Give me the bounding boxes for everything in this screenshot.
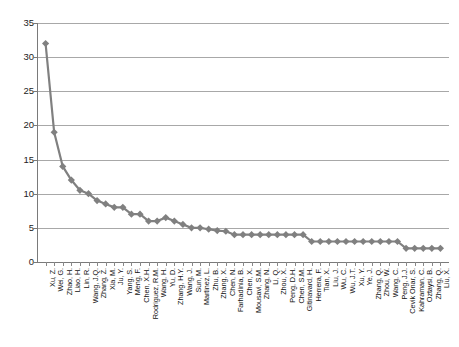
x-tick-mark (209, 262, 210, 266)
gridline (37, 228, 449, 229)
y-tick-label: 10 (0, 189, 34, 199)
x-axis-label: Peng, D.H. (289, 268, 297, 303)
x-axis-label: Martinez, L. (203, 268, 211, 305)
y-tick-label: 5 (0, 223, 34, 233)
x-tick-mark (286, 262, 287, 266)
x-tick-mark (131, 262, 132, 266)
x-tick-mark (406, 262, 407, 266)
x-tick-mark (106, 262, 107, 266)
x-tick-mark (363, 262, 364, 266)
gridline (37, 57, 449, 58)
x-tick-mark (372, 262, 373, 266)
y-axis-line (37, 23, 38, 263)
x-tick-mark (303, 262, 304, 266)
gridline (37, 160, 449, 161)
y-tick-label: 30 (0, 52, 34, 62)
x-tick-mark (329, 262, 330, 266)
gridline (37, 23, 449, 24)
x-tick-mark (380, 262, 381, 266)
x-axis-label: Cevik Onar, S. (409, 268, 417, 314)
x-axis-label: Gitinavard, H. (306, 268, 314, 311)
x-tick-mark (217, 262, 218, 266)
x-tick-mark (149, 262, 150, 266)
x-tick-mark (192, 262, 193, 266)
x-tick-mark (234, 262, 235, 266)
x-tick-mark (54, 262, 55, 266)
x-tick-mark (346, 262, 347, 266)
y-tick-label: 0 (0, 257, 34, 267)
gridline (37, 125, 449, 126)
x-tick-mark (337, 262, 338, 266)
x-tick-mark (71, 262, 72, 266)
x-tick-mark (157, 262, 158, 266)
x-tick-mark (174, 262, 175, 266)
x-tick-mark (97, 262, 98, 266)
x-tick-mark (123, 262, 124, 266)
gridline (37, 194, 449, 195)
x-tick-mark (389, 262, 390, 266)
x-tick-mark (277, 262, 278, 266)
x-axis-label: Wang, H. (160, 268, 168, 297)
x-tick-mark (63, 262, 64, 266)
x-tick-mark (166, 262, 167, 266)
x-axis-label: Wang, J. (186, 268, 194, 296)
plot-area (37, 23, 449, 262)
x-tick-mark (80, 262, 81, 266)
x-axis-labels: Xu, Z.Wei, G.Zhao, H.Liao, H.Lin, R.Wang… (0, 268, 459, 347)
x-tick-mark (183, 262, 184, 266)
x-tick-mark (114, 262, 115, 266)
y-tick-label: 35 (0, 18, 34, 28)
y-tick-label: 20 (0, 121, 34, 131)
gridline (37, 91, 449, 92)
x-tick-mark (140, 262, 141, 266)
x-tick-mark (260, 262, 261, 266)
x-axis-label: Wei, G. (57, 268, 65, 292)
x-axis-label: Zhang, N. (263, 268, 271, 299)
x-axis-label: Wang, C. (392, 268, 400, 297)
x-tick-mark (269, 262, 270, 266)
x-tick-mark (226, 262, 227, 266)
x-tick-mark (320, 262, 321, 266)
x-tick-mark (89, 262, 90, 266)
x-axis-label: Wu, J.T. (349, 268, 357, 293)
x-tick-mark (440, 262, 441, 266)
x-tick-mark (432, 262, 433, 266)
x-tick-mark (312, 262, 313, 266)
x-tick-mark (398, 262, 399, 266)
x-tick-mark (46, 262, 47, 266)
x-axis-label: Chen, X. (246, 268, 254, 296)
x-axis-label: Ye, J. (366, 268, 374, 285)
y-tick-label: 25 (0, 87, 34, 97)
x-axis-label: Chen, X.H. (143, 268, 151, 303)
chart-container: 05101520253035 Xu, Z.Wei, G.Zhao, H.Liao… (0, 0, 459, 347)
x-axis-label: Lin, R. (83, 268, 91, 288)
x-tick-mark (295, 262, 296, 266)
x-tick-mark (415, 262, 416, 266)
x-tick-mark (200, 262, 201, 266)
y-tick-label: 15 (0, 155, 34, 165)
x-axis-label: Zhang, Z. (100, 268, 108, 298)
x-axis-label: Liu, X. (443, 268, 451, 288)
x-tick-mark (243, 262, 244, 266)
x-tick-mark (252, 262, 253, 266)
x-tick-mark (355, 262, 356, 266)
x-tick-mark (423, 262, 424, 266)
